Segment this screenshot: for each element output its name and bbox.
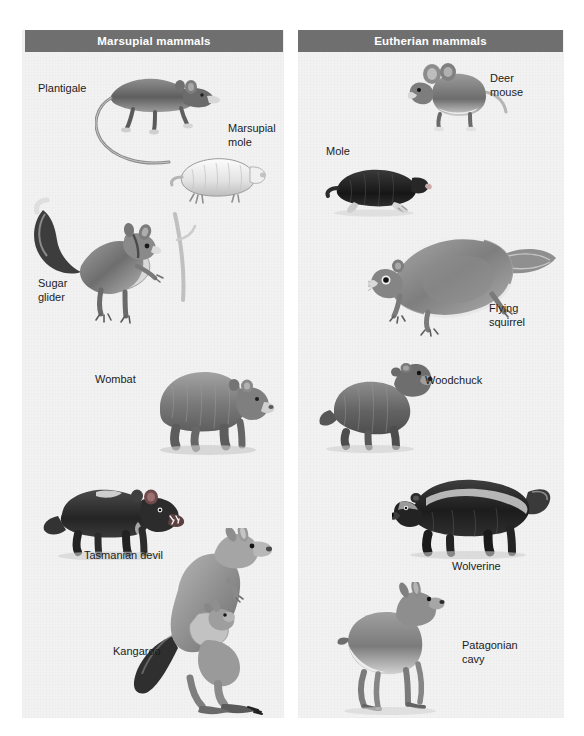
panel-header-eutherian: Eutherian mammals [298, 30, 563, 52]
label-mole: Mole [326, 145, 350, 159]
label-kangaroo: Kangaroo [113, 645, 161, 659]
label-deer-mouse: Deer mouse [490, 72, 523, 99]
label-wolverine: Wolverine [452, 560, 501, 574]
label-wombat: Wombat [95, 373, 136, 387]
label-flying-squirrel: Flying squirrel [489, 302, 525, 329]
label-sugar-glider: Sugar glider [38, 277, 67, 304]
label-plantigale: Plantigale [38, 82, 86, 96]
label-marsupial-mole: Marsupial mole [228, 122, 276, 149]
label-woodchuck: Woodchuck [425, 374, 482, 388]
label-patagonian-cavy: Patagonian cavy [462, 639, 518, 666]
label-tasmanian-devil: Tasmanian devil [84, 549, 163, 563]
convergent-evolution-figure: Marsupial mammals [0, 0, 584, 736]
panel-header-marsupial: Marsupial mammals [25, 30, 283, 52]
